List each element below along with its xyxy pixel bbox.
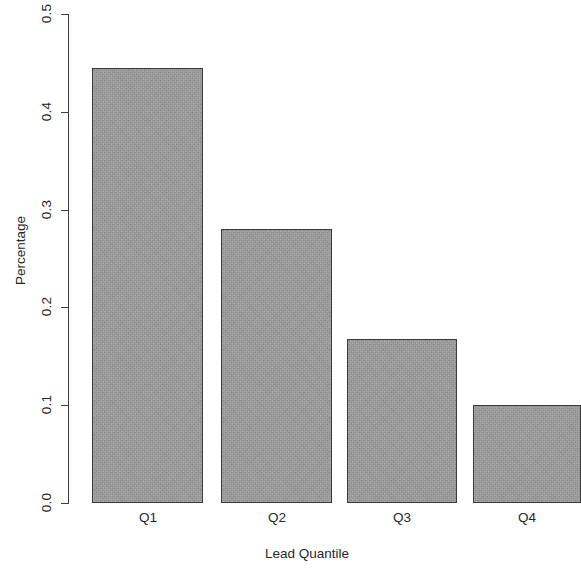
x-axis-tick-label-q1: Q1 [118, 510, 178, 525]
y-axis-tick-1 [61, 405, 68, 406]
bar-q4 [473, 405, 581, 503]
y-axis-line [68, 14, 69, 504]
y-axis-tick-label-5: 0.5 [0, 6, 56, 21]
y-axis-title: Percentage [13, 201, 28, 301]
x-axis-tick-label-q3: Q3 [372, 510, 432, 525]
y-axis-tick-label-2: 0.2 [0, 299, 56, 314]
y-axis-tick-0 [61, 503, 68, 504]
y-axis-tick-label-3: 0.3 [0, 202, 56, 217]
bar-q2 [221, 229, 332, 503]
y-axis-tick-5 [61, 14, 68, 15]
x-axis-tick-label-q4: Q4 [497, 510, 557, 525]
y-axis-tick-4 [61, 112, 68, 113]
bar-q1 [92, 68, 203, 503]
y-axis-tick-label-4: 0.4 [0, 104, 56, 119]
y-axis-tick-label-0: 0.0 [0, 495, 56, 510]
y-axis-tick-label-1: 0.1 [0, 397, 56, 412]
x-axis-title: Lead Quantile [68, 546, 546, 561]
y-axis-tick-3 [61, 210, 68, 211]
x-axis-tick-label-q2: Q2 [247, 510, 307, 525]
y-axis-tick-2 [61, 307, 68, 308]
bar-q3 [347, 339, 457, 503]
